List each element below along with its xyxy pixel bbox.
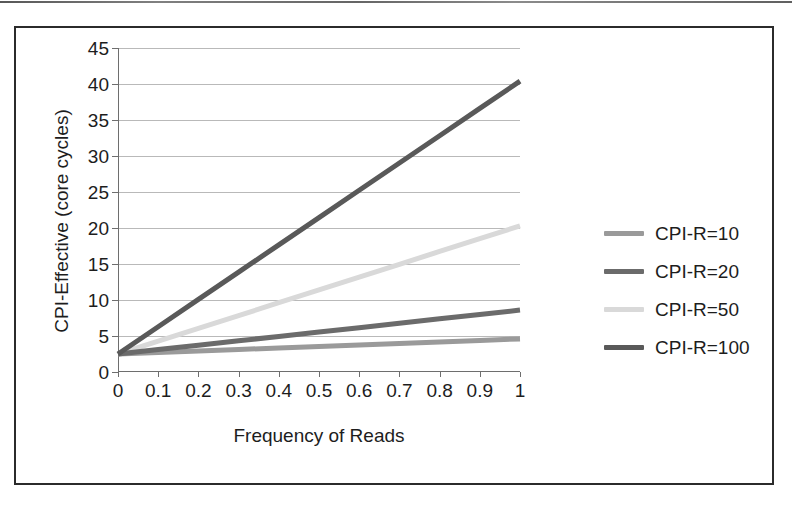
y-tick-label: 25 <box>88 183 109 202</box>
x-tick-label: 0.5 <box>306 381 332 400</box>
x-tick <box>118 372 119 377</box>
figure-frame: 051015202530354045 00.10.20.30.40.50.60.… <box>14 26 774 485</box>
scan-artifact-line <box>0 1 792 3</box>
x-tick-label: 0.8 <box>426 381 452 400</box>
x-axis-title: Frequency of Reads <box>118 425 520 447</box>
y-tick-label: 5 <box>98 327 109 346</box>
legend-label: CPI-R=10 <box>655 224 739 243</box>
chart-area: 051015202530354045 00.10.20.30.40.50.60.… <box>16 28 772 483</box>
x-tick <box>440 372 441 377</box>
legend-swatch-icon <box>604 269 644 274</box>
x-tick <box>319 372 320 377</box>
x-tick <box>158 372 159 377</box>
series-lines <box>118 48 520 372</box>
legend-item[interactable]: CPI-R=20 <box>604 252 769 290</box>
x-tick <box>198 372 199 377</box>
series-line <box>118 81 520 354</box>
x-tick-label: 0.3 <box>225 381 251 400</box>
x-tick-label: 1 <box>515 381 526 400</box>
legend-swatch-icon <box>604 345 644 350</box>
x-tick-label: 0.4 <box>266 381 292 400</box>
legend-label: CPI-R=50 <box>655 300 739 319</box>
x-tick-label: 0.7 <box>386 381 412 400</box>
x-tick <box>399 372 400 377</box>
series-line <box>118 226 520 354</box>
legend-label: CPI-R=100 <box>655 338 750 357</box>
x-tick <box>239 372 240 377</box>
x-tick-label: 0.9 <box>467 381 493 400</box>
legend-label: CPI-R=20 <box>655 262 739 281</box>
y-tick-label: 10 <box>88 291 109 310</box>
x-tick-label: 0.6 <box>346 381 372 400</box>
x-tick <box>279 372 280 377</box>
legend-item[interactable]: CPI-R=100 <box>604 328 769 366</box>
x-tick <box>359 372 360 377</box>
y-tick-label: 40 <box>88 75 109 94</box>
legend-item[interactable]: CPI-R=10 <box>604 214 769 252</box>
legend: CPI-R=10CPI-R=20CPI-R=50CPI-R=100 <box>604 214 769 366</box>
y-tick-label: 15 <box>88 255 109 274</box>
x-tick-label: 0 <box>113 381 124 400</box>
y-tick-label: 30 <box>88 147 109 166</box>
x-tick <box>520 372 521 377</box>
y-tick-label: 45 <box>88 39 109 58</box>
x-tick-label: 0.2 <box>185 381 211 400</box>
y-tick-label: 20 <box>88 219 109 238</box>
y-axis-title: CPI-Effective (core cycles) <box>51 71 73 371</box>
x-tick-label: 0.1 <box>145 381 171 400</box>
y-tick-label: 0 <box>98 363 109 382</box>
x-tick <box>480 372 481 377</box>
y-tick-label: 35 <box>88 111 109 130</box>
legend-item[interactable]: CPI-R=50 <box>604 290 769 328</box>
plot-area: 051015202530354045 00.10.20.30.40.50.60.… <box>118 48 520 372</box>
legend-swatch-icon <box>604 307 644 312</box>
legend-swatch-icon <box>604 231 644 236</box>
